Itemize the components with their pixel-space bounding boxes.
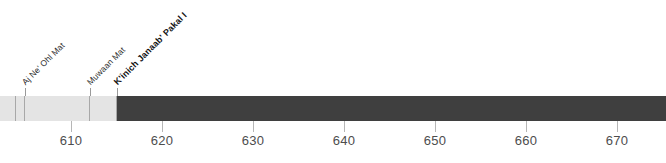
leader-line-kinich-janaab-pakal-i xyxy=(117,88,118,96)
ruler-label-layer: Aj Ne' Ohl Mat Muwaan Mat K'inich Janaab… xyxy=(0,0,666,96)
axis-tick-660 xyxy=(526,121,527,132)
axis-tick-630 xyxy=(253,121,254,132)
axis-tick-620 xyxy=(162,121,163,132)
axis-tick-610 xyxy=(71,121,72,132)
axis-tick-label-610: 610 xyxy=(41,133,101,148)
ruler-label-aj-ne-ohl-mat: Aj Ne' Ohl Mat xyxy=(20,40,67,87)
x-axis: 610 620 630 640 650 660 670 xyxy=(0,121,666,163)
leader-line-muwaan-mat xyxy=(90,88,91,96)
reign-bar-muwaan-mat xyxy=(90,96,117,121)
reign-bar-track xyxy=(0,96,666,121)
reign-bar-segment-2 xyxy=(16,96,25,121)
reign-bar-kinich-janaab-pakal-i xyxy=(117,96,666,121)
reign-bar-aj-ne-ohl-mat xyxy=(25,96,90,121)
axis-tick-650 xyxy=(435,121,436,132)
axis-tick-640 xyxy=(344,121,345,132)
ruler-timeline-chart: Aj Ne' Ohl Mat Muwaan Mat K'inich Janaab… xyxy=(0,0,666,163)
axis-tick-670 xyxy=(617,121,618,132)
axis-tick-label-670: 670 xyxy=(587,133,647,148)
axis-tick-label-650: 650 xyxy=(405,133,465,148)
axis-tick-label-630: 630 xyxy=(223,133,283,148)
leader-line-aj-ne-ohl-mat xyxy=(25,88,26,96)
axis-tick-label-620: 620 xyxy=(132,133,192,148)
axis-tick-label-660: 660 xyxy=(496,133,556,148)
reign-bar-segment-1 xyxy=(0,96,16,121)
axis-tick-label-640: 640 xyxy=(314,133,374,148)
